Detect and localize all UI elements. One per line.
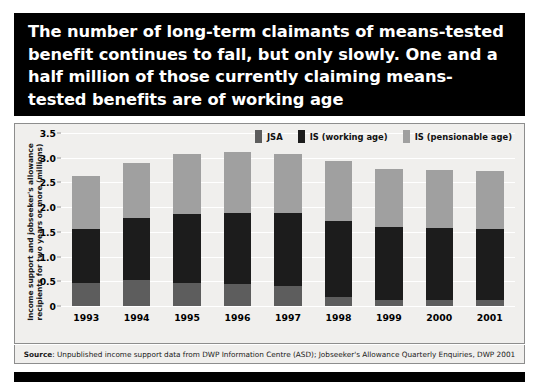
x-axis-tick-label: 2001 [477,312,503,323]
x-axis-tick-label: 1993 [73,312,99,323]
legend-label: JSA [267,132,283,142]
x-axis-tick-label: 2000 [426,312,452,323]
x-axis-tick-label: 1999 [376,312,402,323]
bottom-strip [14,372,525,382]
bar-series-container: 199319941995199619971998199920002001 [61,133,515,306]
bar-group[interactable]: 1995 [173,133,200,306]
legend-swatch-icon [403,130,410,143]
plot-inner: 00.51.01.52.02.53.03.5 19931994199519961… [61,133,515,306]
bar-segment[interactable] [325,297,352,306]
y-axis-tick-label: 0.5 [40,276,56,287]
source-body: : Unpublished income support data from D… [52,350,515,359]
bar-segment[interactable] [375,169,402,227]
bar-segment[interactable] [72,229,99,283]
bar-group[interactable]: 1994 [123,133,150,306]
bar-segment[interactable] [325,221,352,298]
bar-segment[interactable] [426,300,453,306]
bar-segment[interactable] [476,171,503,229]
bar-segment[interactable] [476,300,503,306]
x-axis-tick-label: 1998 [325,312,351,323]
y-axis-tick-label: 3.0 [40,152,56,163]
bar-group[interactable]: 2000 [426,133,453,306]
bar-segment[interactable] [325,161,352,220]
x-axis-tick-label: 1995 [174,312,200,323]
bar-group[interactable]: 1998 [325,133,352,306]
gridline-0 [61,306,515,307]
bar-segment[interactable] [224,213,251,285]
legend-item[interactable]: JSA [255,130,283,143]
bar-segment[interactable] [274,213,301,286]
bar-segment[interactable] [123,280,150,306]
bar-segment[interactable] [72,176,99,229]
bar-segment[interactable] [476,229,503,300]
legend-label: IS (working age) [310,132,388,142]
bar-segment[interactable] [173,214,200,283]
y-axis-tick-label: 2.5 [40,177,56,188]
x-axis-tick-label: 1997 [275,312,301,323]
bar-segment[interactable] [274,154,301,213]
plot-area: 00.51.01.52.02.53.03.5 19931994199519961… [61,133,515,306]
bar-group[interactable]: 1996 [224,133,251,306]
page-title: The number of long-term claimants of mea… [28,21,511,111]
y-axis-tick-label: 1.0 [40,251,56,262]
bar-group[interactable]: 1997 [274,133,301,306]
bar-segment[interactable] [173,154,200,213]
bar-group[interactable]: 1993 [72,133,99,306]
bar-segment[interactable] [123,163,150,218]
legend-swatch-icon [255,130,262,143]
x-axis-tick-label: 1994 [124,312,150,323]
title-banner: The number of long-term claimants of mea… [14,13,525,116]
source-label: Source [24,350,52,359]
bar-segment[interactable] [224,152,251,213]
y-axis-tick-label: 0 [50,301,56,312]
bar-segment[interactable] [72,283,99,306]
bar-segment[interactable] [426,170,453,229]
bar-group[interactable]: 2001 [476,133,503,306]
bar-segment[interactable] [173,283,200,306]
chart-panel: Income support and jobseeker's allowance… [14,123,525,344]
chart-legend: JSAIS (working age)IS (pensionable age) [255,130,512,143]
x-axis-tick-label: 1996 [225,312,251,323]
bar-segment[interactable] [274,286,301,306]
bar-segment[interactable] [224,284,251,306]
bar-segment[interactable] [426,228,453,299]
y-axis-tick-label: 3.5 [40,128,56,139]
legend-swatch-icon [298,130,305,143]
legend-item[interactable]: IS (pensionable age) [403,130,512,143]
y-axis-tick-label: 2.0 [40,202,56,213]
legend-label: IS (pensionable age) [415,132,512,142]
y-axis-tick-label: 1.5 [40,226,56,237]
source-bar: Source: Unpublished income support data … [14,345,525,364]
source-note: Source: Unpublished income support data … [24,350,515,359]
bar-segment[interactable] [375,300,402,306]
bar-segment[interactable] [375,227,402,300]
legend-item[interactable]: IS (working age) [298,130,388,143]
bar-group[interactable]: 1999 [375,133,402,306]
bar-segment[interactable] [123,218,150,280]
